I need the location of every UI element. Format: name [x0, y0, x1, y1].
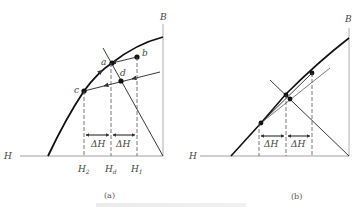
point-c-label: c: [74, 85, 79, 95]
point-d: [118, 78, 123, 83]
point-a-label: a: [101, 57, 106, 67]
point-d-label: d: [120, 68, 126, 78]
point-b-mid2: [288, 97, 293, 102]
b-axis-label-a: B: [159, 12, 167, 22]
figure-caption-faint: [96, 203, 246, 207]
panel-b: H B ΔH ΔH (b): [188, 14, 352, 201]
h-axis-label-b: H: [188, 151, 197, 161]
arrow-cd-2: [104, 85, 108, 86]
delta-h-right-b: ΔH: [290, 139, 305, 149]
load-line-b: [270, 80, 349, 156]
chord-lower-b: [261, 68, 330, 123]
tick-h2: H2: [77, 164, 90, 175]
panel-a-label: (a): [104, 191, 115, 200]
delta-h-left-b: ΔH: [263, 139, 278, 149]
b-axis-label-b: B: [344, 14, 352, 24]
chord-upper-b: [261, 73, 312, 123]
h-axis-label-a: H: [3, 151, 12, 161]
tick-h1: H1: [130, 164, 143, 175]
delta-h-left-a: ΔH: [90, 139, 105, 149]
bh-diagram: H B a b c d ΔH ΔH H2 Hd H1: [0, 0, 358, 211]
panel-a: H B a b c d ΔH ΔH H2 Hd H1: [3, 12, 167, 200]
panel-b-label: (b): [291, 192, 302, 201]
point-b-label: b: [142, 48, 148, 58]
delta-h-right-a: ΔH: [115, 139, 130, 149]
arrow-cd-1: [132, 78, 136, 79]
point-a: [109, 60, 114, 65]
tick-hd: Hd: [104, 164, 117, 175]
